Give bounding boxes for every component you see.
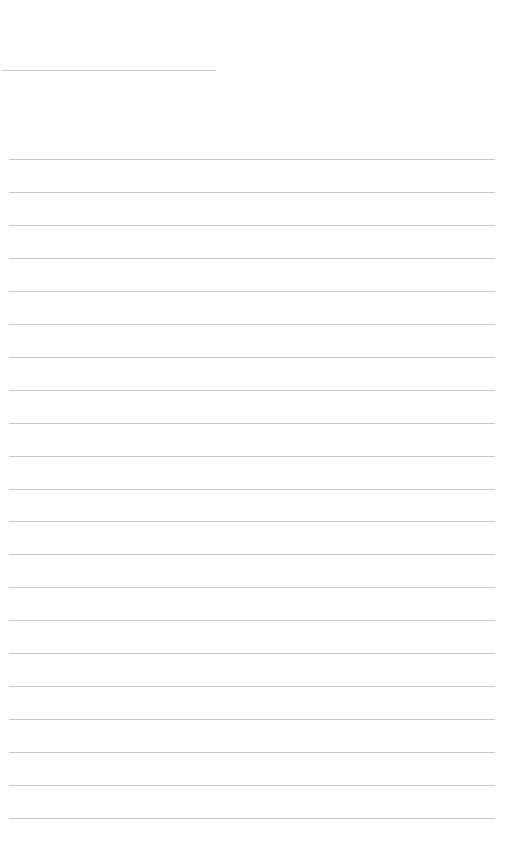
ruled-line [9,489,495,490]
ruled-line [9,752,495,753]
ruled-line [9,357,495,358]
ruled-line [9,686,495,687]
ruled-line [9,456,495,457]
ruled-line [9,719,495,720]
ruled-line [9,324,495,325]
ruled-line [9,818,495,819]
ruled-line [9,159,495,160]
ruled-line [9,390,495,391]
ruled-line [9,225,495,226]
ruled-line [9,291,495,292]
ruled-line [9,620,495,621]
ruled-line [9,587,495,588]
header-rule-line [2,70,216,71]
ruled-line [9,521,495,522]
ruled-line [9,423,495,424]
ruled-line [9,554,495,555]
ruled-line [9,653,495,654]
ruled-paper-page [0,0,527,865]
ruled-line [9,785,495,786]
ruled-line [9,258,495,259]
ruled-line [9,192,495,193]
